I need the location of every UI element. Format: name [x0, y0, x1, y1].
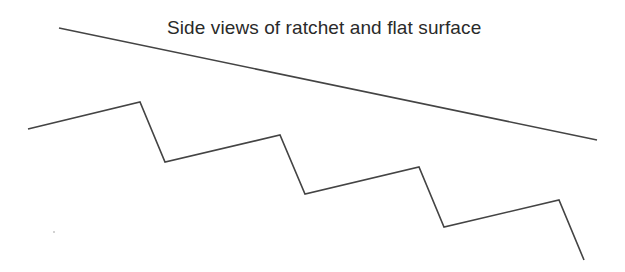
diagram-canvas: Side views of ratchet and flat surface	[0, 0, 625, 272]
diagram-title: Side views of ratchet and flat surface	[167, 17, 481, 39]
stray-dot	[53, 231, 55, 233]
diagram-svg	[0, 0, 625, 272]
ratchet-profile	[28, 102, 584, 260]
flat-surface-line	[59, 28, 597, 140]
